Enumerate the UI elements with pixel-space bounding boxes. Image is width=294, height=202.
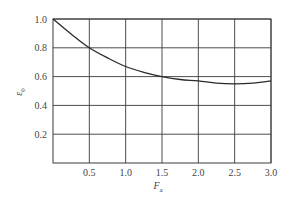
line-chart: 0.51.01.52.02.53.0 0.20.40.60.81.0 Fa ε0	[0, 0, 294, 202]
y-tick-label: 0.4	[35, 100, 48, 111]
x-tick-label: 3.0	[265, 167, 278, 178]
y-tick-label: 0.8	[35, 42, 48, 53]
x-tick-label: 2.0	[192, 167, 205, 178]
y-tick-label: 0.2	[35, 129, 48, 140]
x-tick-label: 1.5	[156, 167, 169, 178]
grid-lines	[53, 19, 271, 163]
x-tick-labels: 0.51.01.52.02.53.0	[83, 167, 277, 178]
x-tick-label: 2.5	[228, 167, 241, 178]
x-tick-label: 1.0	[119, 167, 132, 178]
y-tick-labels: 0.20.40.60.81.0	[35, 14, 48, 140]
y-axis-label: ε0	[13, 88, 27, 96]
y-tick-label: 0.6	[35, 71, 48, 82]
x-axis-label: Fa	[152, 180, 163, 194]
x-tick-label: 0.5	[83, 167, 96, 178]
y-tick-label: 1.0	[35, 14, 48, 25]
